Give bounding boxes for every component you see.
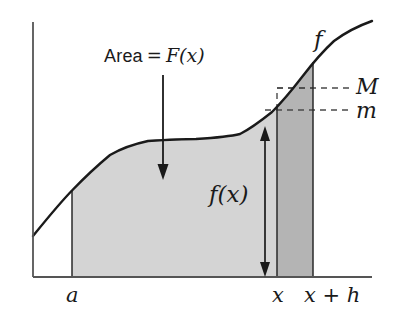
area-callout-label: Area=F(x) bbox=[104, 46, 205, 65]
area-callout-prefix: Area bbox=[104, 46, 143, 66]
area-callout-equals: = bbox=[143, 45, 166, 66]
curve-name-label: f bbox=[314, 28, 323, 51]
x-axis-tick-label-x: x bbox=[272, 285, 284, 306]
x-axis-tick-label-x-plus-h: x + h bbox=[304, 285, 360, 306]
lower-bound-label-m: m bbox=[356, 100, 377, 122]
down-arrow-icon bbox=[158, 75, 169, 180]
fx-measure-label: f(x) bbox=[209, 183, 248, 206]
area-callout-function: F(x) bbox=[166, 44, 205, 66]
area-region-strip bbox=[277, 63, 313, 278]
upper-bound-label-M: M bbox=[356, 76, 379, 98]
x-axis-tick-label-a: a bbox=[66, 285, 79, 306]
figure-container: Area=F(x) f(x) f M m a x x + h bbox=[0, 0, 396, 317]
